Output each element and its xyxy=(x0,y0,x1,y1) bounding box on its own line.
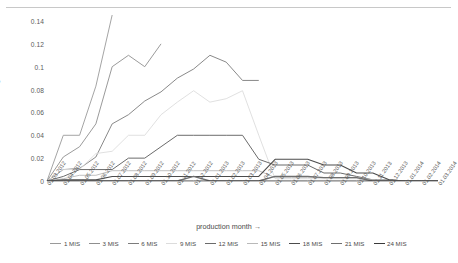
chart-legend: 1 MIS3 MIS6 MIS9 MIS12 MIS15 MIS18 MIS21… xyxy=(0,240,457,247)
legend-label: 3 MIS xyxy=(103,240,119,247)
legend-item[interactable]: 3 MIS xyxy=(89,240,119,247)
legend-label: 18 MIS xyxy=(303,240,323,247)
plot-area xyxy=(47,21,438,181)
legend-swatch-icon xyxy=(205,243,216,245)
legend-item[interactable]: 15 MIS xyxy=(247,240,280,247)
legend-item[interactable]: 21 MIS xyxy=(331,240,364,247)
series-line xyxy=(47,15,112,181)
legend-swatch-icon xyxy=(50,243,61,245)
y-tick-label: 0.02 xyxy=(4,155,44,162)
legend-swatch-icon xyxy=(374,243,385,245)
legend-label: 9 MIS xyxy=(180,240,196,247)
legend-swatch-icon xyxy=(289,243,300,245)
y-tick-label: 0.14 xyxy=(4,18,44,25)
x-axis-title: production month → xyxy=(0,222,457,231)
legend-label: 6 MIS xyxy=(141,240,157,247)
legend-item[interactable]: 1 MIS xyxy=(50,240,80,247)
legend-swatch-icon xyxy=(89,243,100,245)
legend-label: 21 MIS xyxy=(345,240,365,247)
series-lines xyxy=(47,21,438,181)
legend-swatch-icon xyxy=(128,243,139,245)
legend-item[interactable]: 24 MIS xyxy=(374,240,407,247)
legend-label: 1 MIS xyxy=(64,240,80,247)
y-tick-label: 0.12 xyxy=(4,40,44,47)
y-tick-label: 0.08 xyxy=(4,86,44,93)
legend-item[interactable]: 6 MIS xyxy=(128,240,158,247)
y-axis: damage rate → 00.020.040.060.080.10.120.… xyxy=(0,21,44,181)
legend-swatch-icon xyxy=(247,243,258,245)
y-tick-label: 0.1 xyxy=(4,63,44,70)
x-tick-labels: 01.03.201201.04.201201.05.201201.06.2012… xyxy=(47,183,438,223)
legend-item[interactable]: 18 MIS xyxy=(289,240,322,247)
legend-item[interactable]: 12 MIS xyxy=(205,240,238,247)
y-tick-label: 0.04 xyxy=(4,132,44,139)
legend-swatch-icon xyxy=(166,243,177,245)
y-tick-label: 0.06 xyxy=(4,109,44,116)
legend-label: 15 MIS xyxy=(261,240,281,247)
header-rule xyxy=(6,7,451,8)
legend-label: 12 MIS xyxy=(219,240,239,247)
y-tick-label: 0 xyxy=(4,178,44,185)
legend-swatch-icon xyxy=(331,243,342,245)
legend-label: 24 MIS xyxy=(387,240,407,247)
legend-item[interactable]: 9 MIS xyxy=(166,240,196,247)
